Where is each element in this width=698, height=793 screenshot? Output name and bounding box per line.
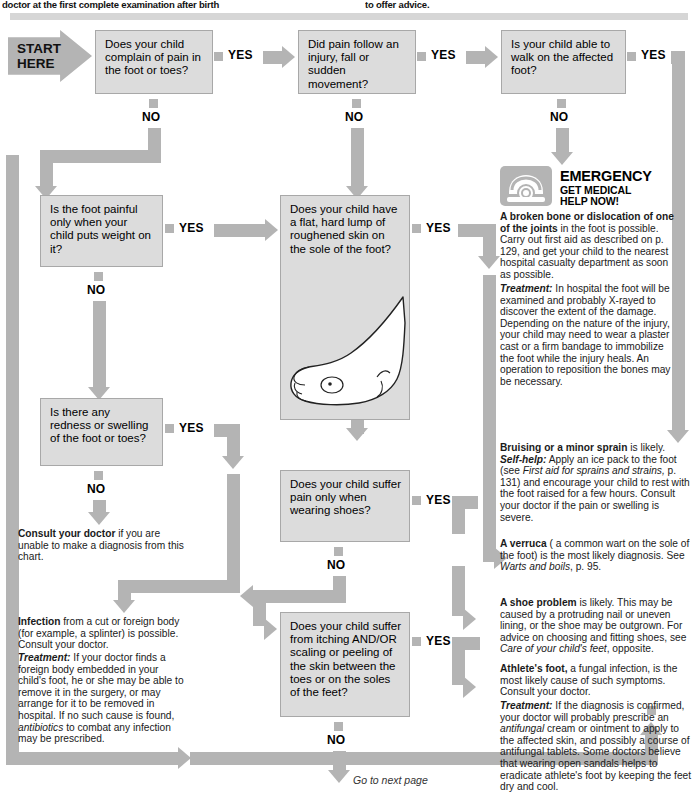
advice-bruising-lead: Bruising or a minor sprain xyxy=(500,442,627,453)
advice-verruca: A verruca ( a common wart on the sole of… xyxy=(500,538,692,573)
label-q2-no: NO xyxy=(345,110,363,124)
label-q5-yes: YES xyxy=(426,221,451,235)
connector-q1-no xyxy=(149,99,158,108)
label-q8-no: NO xyxy=(327,733,345,747)
arrow-to-athletes-foot xyxy=(463,676,476,698)
bar-q1-no-left xyxy=(40,150,161,163)
label-q3-yes: YES xyxy=(641,48,666,62)
label-q4-no: NO xyxy=(87,283,105,297)
bar-q5-yes-long xyxy=(483,275,496,537)
advice-shoe-problem: A shoe problem is likely. This may be ca… xyxy=(500,597,692,655)
question-box-q3[interactable]: Is your child able to walk on the affect… xyxy=(501,30,626,94)
connector-q5-yes xyxy=(412,224,421,233)
question-box-q1[interactable]: Does your child complain of pain in the … xyxy=(95,30,213,94)
start-here-arrow: START HERE xyxy=(8,30,92,82)
telephone-icon-badge xyxy=(500,166,552,206)
bar-q4-no xyxy=(93,301,106,389)
advice-athletes-treatment: Treatment: If the diagnosis is confirmed… xyxy=(500,700,692,793)
advice-shoe-lead: A shoe problem xyxy=(500,597,577,608)
emergency-title: EMERGENCY xyxy=(560,168,652,184)
advice-bruising: Bruising or a minor sprain is likely. Se… xyxy=(500,442,690,523)
arrow-q7-no-left xyxy=(240,585,253,607)
advice-athletes-treatment-label: Treatment: xyxy=(500,700,552,711)
connector-q3-no xyxy=(557,99,566,108)
connector-q4-yes xyxy=(165,224,174,233)
connector-q8-no xyxy=(334,722,343,731)
label-q1-yes: YES xyxy=(228,48,253,62)
bottom-return-bar-left xyxy=(6,752,181,765)
label-q6-no: NO xyxy=(87,482,105,496)
emergency-subtitle-line2: HELP NOW! xyxy=(560,196,619,208)
question-text-q3: Is your child able to walk on the affect… xyxy=(511,38,617,78)
connector-q4-no xyxy=(94,272,103,281)
bar-verruca-elbow xyxy=(483,537,496,562)
arrow-q3-no-down xyxy=(551,152,573,165)
header-right-text: to offer advice. xyxy=(365,0,565,10)
arrow-to-shoe-problem xyxy=(463,608,476,630)
connector-q2-yes xyxy=(417,52,426,61)
label-q2-yes: YES xyxy=(431,48,456,62)
advice-infection-treatment: Treatment: If your doctor finds a foreig… xyxy=(18,652,188,745)
flowchart-page: doctor at the first complete examination… xyxy=(0,0,698,793)
question-box-q5[interactable]: Does your child have a flat, hard lump o… xyxy=(280,195,410,420)
label-q3-no: NO xyxy=(550,110,568,124)
emergency-treatment-body: In hospital the foot will be examined an… xyxy=(500,283,670,387)
connector-q7-yes xyxy=(412,496,421,505)
arrow-q4-yes xyxy=(265,219,278,241)
arrow-q6-no-down xyxy=(88,512,110,525)
label-q8-yes: YES xyxy=(426,634,451,648)
question-text-q8: Does your child suffer from itching AND/… xyxy=(290,620,401,699)
connector-q7-no xyxy=(334,547,343,556)
bar-q2-no xyxy=(351,128,364,188)
advice-verruca-lead: A verruca xyxy=(500,538,547,549)
go-to-next-page-note: Go to next page xyxy=(353,774,428,786)
bar-q5-no xyxy=(351,420,364,434)
question-text-q5: Does your child have a flat, hard lump o… xyxy=(290,203,401,256)
question-box-q6[interactable]: Is there any redness or swelling of the … xyxy=(40,398,163,466)
emergency-diagnosis-text: A broken bone or dislocation of one of t… xyxy=(500,211,678,281)
bar-q7-no-left xyxy=(253,590,346,603)
advice-verruca-italic: Warts and boils xyxy=(500,561,570,572)
advice-athletes-treatment-italic: antifungal xyxy=(500,723,544,734)
bar-q6-yes-left xyxy=(118,580,240,593)
header-left-text: doctor at the first complete examination… xyxy=(2,0,332,10)
advice-bruising-selfhelp-italic: First aid for sprains and strains, xyxy=(523,465,665,476)
question-box-q8[interactable]: Does your child suffer from itching AND/… xyxy=(280,612,410,717)
arrow-q6-yes-drop xyxy=(222,456,244,469)
bar-q7-yes-drop xyxy=(452,496,465,534)
connector-q1-yes xyxy=(214,52,223,61)
emergency-treatment-label: Treatment: xyxy=(500,283,552,294)
advice-consult-doctor: Consult your doctor if you are unable to… xyxy=(18,528,188,563)
question-text-q7: Does your child suffer pain only when we… xyxy=(290,478,401,518)
arrow-q2-yes xyxy=(485,46,498,68)
advice-infection: Infection from a cut or foreign body (fo… xyxy=(18,616,188,651)
start-line1: START xyxy=(17,41,61,56)
advice-infection-treatment-italic: antibiotics xyxy=(18,722,63,733)
question-text-q1: Does your child complain of pain in the … xyxy=(105,38,204,78)
connector-q6-no xyxy=(94,471,103,480)
question-box-q7[interactable]: Does your child suffer pain only when we… xyxy=(280,470,410,542)
emergency-treatment-text: Treatment: In hospital the foot will be … xyxy=(500,283,678,387)
advice-consult-lead: Consult your doctor xyxy=(18,528,115,539)
connector-q2-no xyxy=(352,99,361,108)
label-q4-yes: YES xyxy=(179,221,204,235)
label-q7-yes: YES xyxy=(426,493,451,507)
arrow-q5-yes-drop xyxy=(478,256,500,269)
question-box-q2[interactable]: Did pain follow an injury, fall or sudde… xyxy=(298,30,416,94)
label-q7-no: NO xyxy=(327,558,345,572)
connector-q6-yes xyxy=(165,424,174,433)
advice-athletes-lead: Athlete's foot, xyxy=(500,663,568,674)
question-box-q4[interactable]: Is the foot painful only when your child… xyxy=(40,195,163,267)
question-text-q2: Did pain follow an injury, fall or sudde… xyxy=(308,38,407,91)
label-q1-no: NO xyxy=(142,110,160,124)
telephone-icon xyxy=(500,166,552,206)
bar-q2-yes xyxy=(466,51,486,64)
bar-q1-no-drop xyxy=(40,150,53,188)
arrow-q8-no-down xyxy=(328,770,350,783)
bar-q4-yes xyxy=(214,224,266,237)
advice-bruising-selfhelp-label: Self-help: xyxy=(500,454,546,465)
header-divider xyxy=(10,13,688,20)
advice-infection-treatment-label: Treatment: xyxy=(18,652,70,663)
connector-q3-yes xyxy=(627,52,636,61)
start-line2: HERE xyxy=(17,56,55,71)
